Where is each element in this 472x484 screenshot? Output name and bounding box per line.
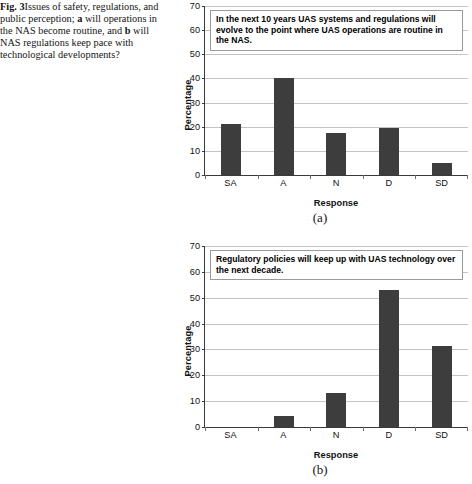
y-tick-label-20-b: 20	[190, 370, 200, 380]
figure-panels: Percentage In the next 10 years UAS syst…	[168, 0, 472, 484]
y-tick-label-50-a: 50	[190, 49, 200, 59]
x-axis-title-b: Response	[204, 450, 468, 460]
bar-d-a	[379, 128, 399, 175]
bar-sd-b	[432, 346, 452, 427]
y-tick-label-60-a: 60	[190, 25, 200, 35]
plot-area-a: In the next 10 years UAS systems and reg…	[204, 6, 468, 176]
bar-d-b	[379, 290, 399, 427]
chart-panel-b: Percentage Regulatory policies will keep…	[168, 240, 472, 484]
bar-chart-a: Percentage In the next 10 years UAS syst…	[168, 0, 472, 210]
x-tick-label-n-a: N	[310, 178, 363, 192]
y-tick-label-0-a: 0	[195, 170, 200, 180]
bar-chart-b: Percentage Regulatory policies will keep…	[168, 240, 472, 462]
x-tick-label-sd-a: SD	[415, 178, 468, 192]
chart-title-a: In the next 10 years UAS systems and reg…	[210, 10, 463, 51]
panel-letter-a: (a)	[168, 210, 472, 226]
y-tick-label-70-b: 70	[190, 241, 200, 251]
x-tick-label-d-b: D	[362, 430, 415, 444]
panel-letter-b: (b)	[168, 462, 472, 478]
y-tick-label-0-b: 0	[195, 422, 200, 432]
figure-caption: Fig. 3Issues of safety, regulations, and…	[0, 1, 168, 61]
y-tick-label-60-b: 60	[190, 267, 200, 277]
x-tick-label-n-b: N	[310, 430, 363, 444]
figure-number: Fig. 3	[0, 1, 25, 12]
x-axis-tick-labels-a: SAANDSD	[204, 178, 468, 192]
x-axis-title-a: Response	[204, 198, 468, 208]
y-tick-label-50-b: 50	[190, 293, 200, 303]
x-tick-label-a-b: A	[257, 430, 310, 444]
bar-a-b	[274, 416, 294, 427]
x-tick-label-a-a: A	[257, 178, 310, 192]
plot-area-b: Regulatory policies will keep up with UA…	[204, 246, 468, 428]
y-tick-label-40-b: 40	[190, 319, 200, 329]
chart-title-b: Regulatory policies will keep up with UA…	[210, 250, 463, 280]
bar-a-a	[274, 78, 294, 175]
x-tick-label-sa-b: SA	[204, 430, 257, 444]
x-tick-label-d-a: D	[362, 178, 415, 192]
bar-sd-a	[432, 163, 452, 175]
x-tick-label-sd-b: SD	[415, 430, 468, 444]
y-tick-label-30-a: 30	[190, 98, 200, 108]
bar-n-b	[326, 393, 346, 427]
bar-n-a	[326, 133, 346, 175]
x-axis-tick-labels-b: SAANDSD	[204, 430, 468, 444]
chart-panel-a: Percentage In the next 10 years UAS syst…	[168, 0, 472, 232]
y-tick-label-10-b: 10	[190, 396, 200, 406]
y-tick-label-10-a: 10	[190, 146, 200, 156]
bar-sa-a	[221, 124, 241, 175]
y-tick-label-30-b: 30	[190, 344, 200, 354]
y-tick-label-40-a: 40	[190, 73, 200, 83]
x-tick-label-sa-a: SA	[204, 178, 257, 192]
y-tick-label-20-a: 20	[190, 122, 200, 132]
y-tick-label-70-a: 70	[190, 1, 200, 11]
